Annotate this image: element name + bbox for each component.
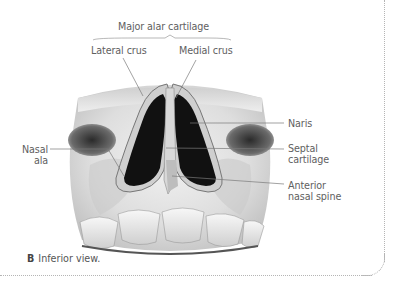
caption-letter: B [27, 253, 34, 264]
figure-caption: BInferior view. [27, 253, 100, 264]
label-major-alar-cartilage: Major alar cartilage [118, 21, 209, 32]
label-septal-cartilage: Septal cartilage [288, 143, 329, 165]
nasal-inferior-view-illustration [0, 0, 408, 290]
right-orbit [226, 124, 274, 156]
left-orbit [68, 124, 116, 156]
label-anterior-nasal-spine: Anterior nasal spine [288, 180, 341, 202]
label-lateral-crus: Lateral crus [91, 45, 147, 56]
label-medial-crus: Medial crus [179, 45, 233, 56]
label-nasal-ala: Nasal ala [12, 144, 48, 166]
label-naris: Naris [288, 118, 312, 129]
caption-text: Inferior view. [38, 253, 100, 264]
